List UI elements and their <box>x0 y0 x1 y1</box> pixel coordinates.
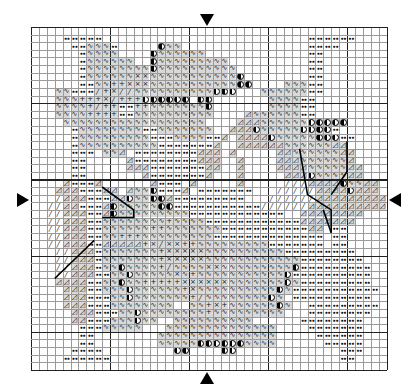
stitch-plus-icon: + <box>165 278 173 286</box>
stitch-wave-icon: ∿ <box>102 118 110 126</box>
stitch-dots-icon: •• <box>331 225 339 233</box>
stitch-wave-icon: ∿ <box>323 157 331 165</box>
stitch-triangle-icon: ◿ <box>205 172 213 180</box>
stitch-wave-icon: ∿ <box>150 301 158 309</box>
stitch-wave-icon: ∿ <box>118 301 126 309</box>
stitch-wave-icon: ∿ <box>284 126 292 134</box>
stitch-triangle-icon: ◿ <box>236 141 244 149</box>
stitch-wave-icon: ∿ <box>300 88 308 96</box>
stitch-wave-icon: ∿ <box>150 317 158 325</box>
stitch-dots-icon: •• <box>102 355 110 363</box>
stitch-wave-icon: ∿ <box>173 134 181 142</box>
stitch-triangle-icon: ◿ <box>63 233 71 241</box>
stitch-dots-icon: •• <box>315 65 323 73</box>
stitch-triangle-icon: ◿ <box>315 202 323 210</box>
grid-line-horizontal <box>31 225 387 226</box>
stitch-wave-icon: ∿ <box>126 65 134 73</box>
stitch-dots-icon: •• <box>308 301 316 309</box>
stitch-plus-icon: + <box>94 111 102 119</box>
half-circle-icon <box>150 187 157 194</box>
stitch-dots-icon: •• <box>229 233 237 241</box>
stitch-wave-icon: ∿ <box>157 271 165 279</box>
stitch-wave-icon: ∿ <box>197 271 205 279</box>
stitch-dots-icon: •• <box>94 210 102 218</box>
stitch-wave-icon: ∿ <box>126 134 134 142</box>
stitch-wave-icon: ∿ <box>197 317 205 325</box>
stitch-dots-icon: •• <box>94 35 102 43</box>
stitch-wave-icon: ∿ <box>308 164 316 172</box>
stitch-cross-icon: × <box>173 248 181 256</box>
stitch-triangle-icon: ◿ <box>71 309 79 317</box>
stitch-wave-icon: ∿ <box>181 294 189 302</box>
grid-line-vertical <box>300 27 301 370</box>
stitch-dots-icon: •• <box>339 278 347 286</box>
stitch-half-circle-icon <box>300 126 308 134</box>
half-circle-icon <box>205 103 212 110</box>
stitch-wave-icon: ∿ <box>165 294 173 302</box>
half-circle-icon <box>284 271 291 278</box>
stitch-dots-icon: •• <box>284 233 292 241</box>
stitch-wave-icon: ∿ <box>173 324 181 332</box>
stitch-wave-icon: ∿ <box>331 149 339 157</box>
stitch-triangle-icon: ◿ <box>323 195 331 203</box>
stitch-triangle-icon: ◿ <box>86 271 94 279</box>
stitch-wave-icon: ∿ <box>165 301 173 309</box>
stitch-wave-icon: ∿ <box>205 80 213 88</box>
stitch-wave-icon: ∿ <box>142 111 150 119</box>
stitch-wave-icon: ∿ <box>205 271 213 279</box>
half-circle-icon <box>268 294 275 301</box>
grid-line-horizontal <box>31 141 387 142</box>
grid-line-vertical <box>157 27 158 370</box>
stitch-wave-icon: ∿ <box>118 317 126 325</box>
stitch-wave-icon: ∿ <box>102 134 110 142</box>
stitch-triangle-icon: ◿ <box>308 218 316 226</box>
stitch-dots-icon: •• <box>94 355 102 363</box>
stitch-half-circle-icon <box>157 202 165 210</box>
stitch-dots-icon: •• <box>331 248 339 256</box>
stitch-dots-icon: •• <box>63 355 71 363</box>
stitch-half-circle-icon <box>126 271 134 279</box>
half-circle-icon <box>126 195 133 202</box>
stitch-slash-icon: ╱ <box>276 195 284 203</box>
stitch-wave-icon: ∿ <box>181 88 189 96</box>
half-circle-icon <box>118 264 125 271</box>
stitch-triangle-icon: ◿ <box>371 195 379 203</box>
stitch-triangle-icon: ◿ <box>339 202 347 210</box>
stitch-wave-icon: ∿ <box>197 233 205 241</box>
stitch-dots-icon: •• <box>260 225 268 233</box>
stitch-slash-shaded-icon: ╱ <box>165 263 173 271</box>
stitch-slash-shaded-icon: ╱ <box>157 240 165 248</box>
stitch-wave-icon: ∿ <box>339 157 347 165</box>
stitch-triangle-icon: ◿ <box>213 164 221 172</box>
stitch-triangle-icon: ◿ <box>315 218 323 226</box>
grid-line-horizontal <box>31 172 387 173</box>
stitch-wave-icon: ∿ <box>205 233 213 241</box>
stitch-wave-icon: ∿ <box>165 286 173 294</box>
stitch-wave-icon: ∿ <box>300 118 308 126</box>
stitch-dots-icon: •• <box>355 309 363 317</box>
stitch-triangle-icon: ◿ <box>339 141 347 149</box>
stitch-wave-icon: ∿ <box>118 225 126 233</box>
grid-line-horizontal <box>31 42 387 43</box>
stitch-wave-icon: ∿ <box>276 278 284 286</box>
stitch-dots-icon: •• <box>94 347 102 355</box>
stitch-half-circle-icon <box>315 118 323 126</box>
stitch-dots-icon: •• <box>331 240 339 248</box>
stitch-wave-icon: ∿ <box>181 134 189 142</box>
half-circle-icon <box>332 119 339 126</box>
stitch-wave-icon: ∿ <box>142 294 150 302</box>
grid-line-vertical <box>260 27 261 370</box>
stitch-triangle-icon: ◿ <box>355 210 363 218</box>
stitch-wave-icon: ∿ <box>292 96 300 104</box>
stitch-wave-icon: ∿ <box>86 50 94 58</box>
stitch-triangle-icon: ◿ <box>229 149 237 157</box>
stitch-dots-icon: •• <box>71 172 79 180</box>
stitch-wave-icon: ∿ <box>197 118 205 126</box>
stitch-dots-icon: •• <box>292 225 300 233</box>
stitch-wave-icon: ∿ <box>213 73 221 81</box>
stitch-dots-icon: •• <box>86 339 94 347</box>
stitch-wave-icon: ∿ <box>315 157 323 165</box>
stitch-slash-icon: ╱ <box>63 263 71 271</box>
stitch-wave-icon: ∿ <box>86 73 94 81</box>
stitch-dots-icon: •• <box>94 263 102 271</box>
